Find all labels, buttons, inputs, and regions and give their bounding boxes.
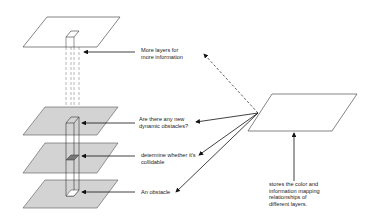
layer-plane-upper bbox=[23, 107, 118, 135]
layer-diagram bbox=[0, 0, 377, 219]
label-more-layers: More layers for more information bbox=[141, 47, 183, 60]
label-collidable: determine whether it's collidable bbox=[141, 152, 196, 165]
arrow-to-collidable bbox=[199, 113, 258, 155]
arrow-to-dynamic bbox=[196, 113, 258, 122]
mapping-plane bbox=[248, 94, 357, 131]
label-mapping: stores the color and information mapping… bbox=[269, 181, 320, 207]
label-dynamic-obstacles: Are there any new dynamic obstacles? bbox=[139, 116, 188, 129]
arrow-to-more-layers bbox=[204, 54, 258, 113]
label-obstacle: An obstacle bbox=[141, 189, 170, 196]
